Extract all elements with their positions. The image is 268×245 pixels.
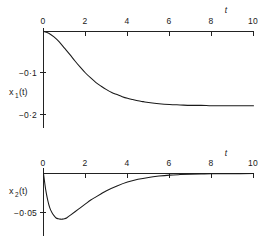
bottom-xtick-label-10: 10: [248, 158, 258, 168]
bottom-y-axis-title: x 2 (t): [9, 186, 28, 198]
bottom-xtick-label-8: 8: [209, 158, 214, 168]
plot-svg: 0 2 4 6 8 10 −0·1 −0·2 t x 1 (t): [0, 0, 268, 245]
bottom-ytick-label-minus-0-05: −0·05: [14, 208, 37, 218]
figure-container: 0 2 4 6 8 10 −0·1 −0·2 t x 1 (t): [0, 0, 268, 245]
top-y-axis-title-tail: (t): [19, 87, 28, 97]
top-ytick-label-minus-0-2: −0·2: [19, 110, 37, 120]
curve-x2: [44, 174, 254, 220]
bottom-y-axis-title-tail: (t): [19, 186, 28, 196]
bottom-xtick-label-2: 2: [83, 158, 88, 168]
bottom-xtick-label-6: 6: [167, 158, 172, 168]
top-xtick-label-6: 6: [167, 16, 172, 26]
top-xtick-label-10: 10: [248, 16, 258, 26]
top-xtick-label-0: 0: [41, 16, 46, 26]
bottom-x-axis-title: t: [225, 148, 228, 158]
curve-x1: [44, 32, 254, 106]
top-x-ticks: [86, 32, 254, 37]
panel-top: 0 2 4 6 8 10 −0·1 −0·2 t x 1 (t): [9, 5, 258, 128]
top-xtick-label-2: 2: [83, 16, 88, 26]
top-ytick-label-minus-0-1: −0·1: [19, 68, 37, 78]
bottom-xtick-label-0: 0: [41, 158, 46, 168]
top-y-axis-title-main: x: [9, 87, 14, 97]
bottom-xtick-label-4: 4: [125, 158, 130, 168]
top-x-axis-title: t: [225, 5, 228, 15]
top-y-axis-title: x 1 (t): [9, 87, 28, 99]
top-xtick-label-8: 8: [209, 16, 214, 26]
top-xtick-label-4: 4: [125, 16, 130, 26]
bottom-y-axis-title-main: x: [9, 186, 14, 196]
panel-bottom: 0 2 4 6 8 10 −0·05 t x 2 (t): [9, 148, 258, 236]
